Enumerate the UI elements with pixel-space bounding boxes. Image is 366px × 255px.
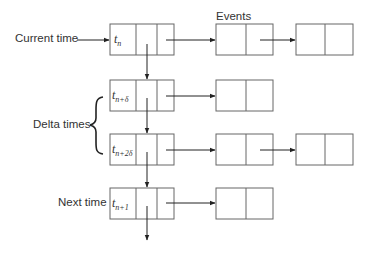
time-node-1-label: tn+δ <box>112 88 128 104</box>
delta-brace <box>90 97 103 154</box>
time-node-3-label: tn+1 <box>112 196 129 212</box>
event-box-0-1 <box>296 24 353 55</box>
time-node-0-label: tn <box>114 32 121 48</box>
current-time-label: Current time <box>15 32 78 44</box>
event-box-3-0 <box>216 188 273 219</box>
delta-times-label: Delta times <box>33 118 91 130</box>
time-node-2-label: tn+2δ <box>112 142 132 158</box>
event-box-2-1 <box>296 134 353 165</box>
events-label: Events <box>216 10 251 22</box>
next-time-label: Next time <box>58 196 107 208</box>
event-box-1-0 <box>216 80 273 111</box>
